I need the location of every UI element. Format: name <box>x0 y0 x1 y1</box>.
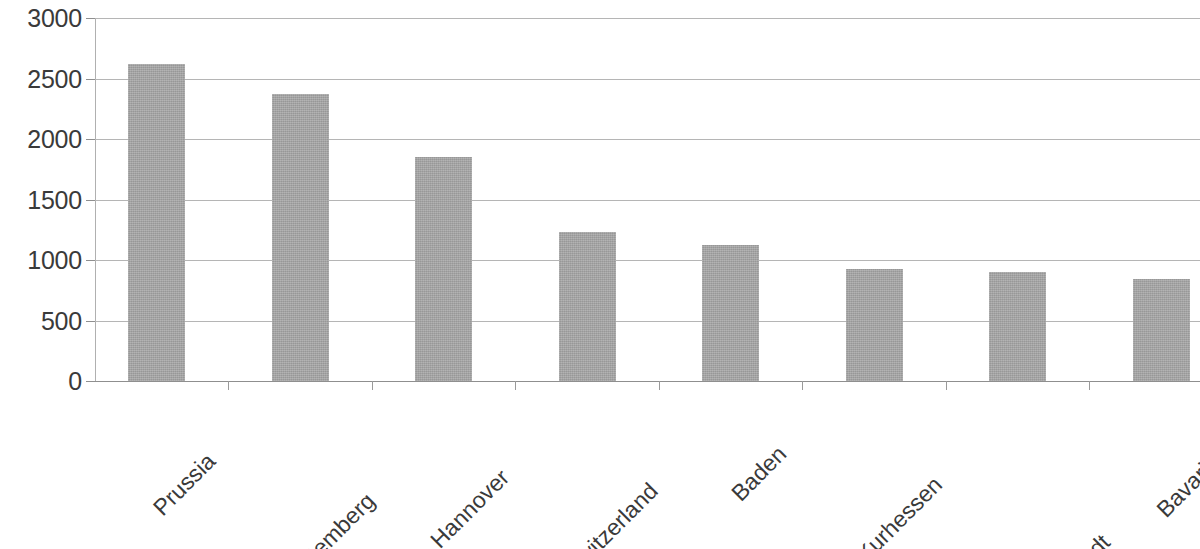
bar[interactable] <box>415 157 472 381</box>
y-axis-tick-label: 1500 <box>2 187 82 212</box>
y-tick-mark <box>86 79 95 80</box>
y-tick-mark <box>86 260 95 261</box>
y-tick-mark <box>86 139 95 140</box>
bar[interactable] <box>128 64 185 381</box>
y-tick-mark <box>86 18 95 19</box>
bar[interactable] <box>272 94 329 381</box>
gridline <box>95 139 1200 140</box>
y-axis-tick-label: 0 <box>2 369 82 394</box>
y-tick-mark <box>86 381 95 382</box>
x-axis-tick-label: Switzerland <box>646 395 746 495</box>
bar[interactable] <box>1133 279 1190 381</box>
plot-area <box>95 18 1200 381</box>
bar-chart: 300025002000150010005000 PrussiaWürttemb… <box>0 0 1200 549</box>
x-axis-tick-label: Baden <box>774 395 837 458</box>
y-axis-tick-label: 2000 <box>2 127 82 152</box>
y-axis-tick-label: 1000 <box>2 248 82 273</box>
y-tick-mark <box>86 200 95 201</box>
bar[interactable] <box>846 269 903 381</box>
x-axis-tick-label-text: Württemberg <box>269 489 379 549</box>
y-axis-tick-label: 500 <box>2 308 82 333</box>
bar[interactable] <box>989 272 1046 381</box>
gridline <box>95 79 1200 80</box>
x-axis-tick-label: Hannover <box>497 395 584 482</box>
gridline <box>95 200 1200 201</box>
y-axis-tick-label: 3000 <box>2 6 82 31</box>
x-axis-tick-label-text: Hessen-Darmstadt <box>962 531 1114 549</box>
x-axis-tick-label: Prussia <box>203 395 274 466</box>
bar[interactable] <box>559 232 616 381</box>
x-axis-tick-label-text: Hannover <box>426 466 513 549</box>
gridline <box>95 18 1200 19</box>
y-tick-mark <box>86 321 95 322</box>
x-axis-tick-label-text: Prussia <box>149 449 220 520</box>
x-axis-tick-label-text: Kurhessen <box>852 473 946 549</box>
gridline <box>95 260 1200 261</box>
y-axis-tick-labels: 300025002000150010005000 <box>0 0 82 549</box>
x-axis-tick-label-text: Baden <box>727 442 790 505</box>
x-axis-tick-label: Kurhessen <box>930 395 1024 489</box>
y-axis-tick-label: 2500 <box>2 66 82 91</box>
bar[interactable] <box>702 245 759 381</box>
x-axis-tick-labels: PrussiaWürttembergHannoverSwitzerlandBad… <box>95 381 1200 549</box>
x-axis-tick-label-text: Switzerland <box>562 479 662 549</box>
x-axis-tick-label: Württemberg <box>363 395 473 505</box>
